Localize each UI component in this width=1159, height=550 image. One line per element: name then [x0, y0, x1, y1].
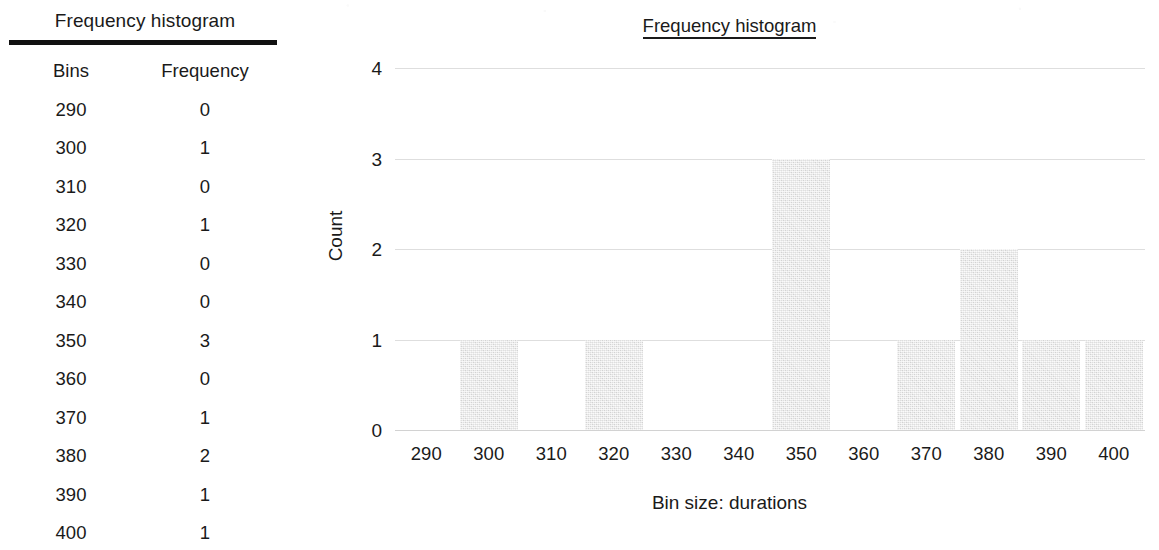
cell-frequency: 0: [133, 283, 277, 322]
cell-frequency: 0: [133, 91, 277, 130]
frequency-table: Bins Frequency 2900300131003201330034003…: [9, 52, 277, 550]
table-row: 4001: [9, 514, 277, 550]
cell-bin: 390: [9, 476, 133, 515]
frequency-table-panel: Frequency histogram Bins Frequency 29003…: [0, 0, 300, 550]
y-tick-label: 1: [352, 330, 382, 349]
bar: [460, 340, 518, 431]
bar: [897, 340, 955, 431]
bar: [585, 340, 643, 431]
x-tick-label: 340: [708, 443, 770, 465]
table-row: 3400: [9, 283, 277, 322]
bar: [1022, 340, 1080, 431]
y-tick-label: 0: [352, 421, 382, 440]
table-row: 3503: [9, 322, 277, 361]
cell-frequency: 1: [133, 206, 277, 245]
table-row: 3701: [9, 399, 277, 438]
x-tick-label: 300: [458, 443, 520, 465]
cell-bin: 360: [9, 360, 133, 399]
frequency-table-body: 2900300131003201330034003503360037013802…: [9, 91, 277, 550]
cell-bin: 350: [9, 322, 133, 361]
x-tick-label: 370: [895, 443, 957, 465]
histogram-panel: Frequency histogram Count 01234 29030031…: [300, 0, 1159, 550]
column-header-frequency: Frequency: [133, 52, 277, 91]
y-axis-label: Count: [325, 191, 347, 281]
x-tick-label: 320: [583, 443, 645, 465]
table-row: 3201: [9, 206, 277, 245]
table-title: Frequency histogram: [0, 10, 290, 32]
x-tick-label: 350: [770, 443, 832, 465]
x-tick-label: 380: [958, 443, 1020, 465]
gridline: [395, 430, 1145, 431]
cell-bin: 300: [9, 129, 133, 168]
table-row: 3600: [9, 360, 277, 399]
table-header-row: Bins Frequency: [9, 52, 277, 91]
x-tick-label: 310: [520, 443, 582, 465]
x-tick-label: 290: [395, 443, 457, 465]
table-row: 2900: [9, 91, 277, 130]
bar: [960, 249, 1018, 430]
x-tick-label: 390: [1020, 443, 1082, 465]
column-header-bins: Bins: [9, 52, 133, 91]
x-axis-label: Bin size: durations: [300, 492, 1159, 514]
x-tick-label: 330: [645, 443, 707, 465]
table-row: 3100: [9, 168, 277, 207]
bar: [772, 159, 830, 431]
cell-frequency: 0: [133, 168, 277, 207]
cell-frequency: 1: [133, 399, 277, 438]
table-row: 3300: [9, 245, 277, 284]
bar: [1085, 340, 1143, 431]
cell-bin: 400: [9, 514, 133, 550]
cell-frequency: 3: [133, 322, 277, 361]
chart-title: Frequency histogram: [300, 15, 1159, 37]
x-tick-label: 360: [833, 443, 895, 465]
chart-title-text: Frequency histogram: [643, 15, 817, 39]
cell-bin: 320: [9, 206, 133, 245]
cell-frequency: 0: [133, 360, 277, 399]
y-tick-label: 3: [352, 149, 382, 168]
cell-frequency: 1: [133, 476, 277, 515]
cell-bin: 340: [9, 283, 133, 322]
y-tick-label: 4: [352, 59, 382, 78]
cell-frequency: 1: [133, 129, 277, 168]
y-tick-label: 2: [352, 240, 382, 259]
cell-bin: 370: [9, 399, 133, 438]
table-row: 3901: [9, 476, 277, 515]
cell-bin: 310: [9, 168, 133, 207]
cell-bin: 290: [9, 91, 133, 130]
table-row: 3001: [9, 129, 277, 168]
gridline: [395, 159, 1145, 160]
gridline: [395, 68, 1145, 69]
cell-frequency: 1: [133, 514, 277, 550]
x-tick-label: 400: [1083, 443, 1145, 465]
cell-bin: 330: [9, 245, 133, 284]
x-axis-ticks: 290300310320330340350360370380390400: [395, 443, 1145, 473]
table-row: 3802: [9, 437, 277, 476]
cell-bin: 380: [9, 437, 133, 476]
cell-frequency: 2: [133, 437, 277, 476]
plot-area: [395, 68, 1145, 430]
y-axis-ticks: 01234: [346, 68, 382, 430]
gridline: [395, 249, 1145, 250]
cell-frequency: 0: [133, 245, 277, 284]
table-header-rule: [9, 40, 277, 45]
